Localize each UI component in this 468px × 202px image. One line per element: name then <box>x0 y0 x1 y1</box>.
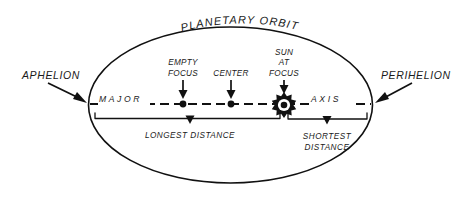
empty-focus-dot-icon <box>180 101 187 108</box>
major-axis-label-left: MAJOR <box>99 94 142 104</box>
perihelion-label: PERIHELION <box>381 69 451 81</box>
sun-starburst-icon <box>272 92 296 118</box>
planetary-orbit-diagram: PLANETARY ORBIT MAJOR AXIS APHELION PERI… <box>0 0 468 202</box>
center-callout-arrow <box>227 80 236 99</box>
empty-focus-label-line2: FOCUS <box>168 69 198 78</box>
longest-distance-bracket <box>95 113 280 124</box>
perihelion-pointer-arrow <box>375 83 412 103</box>
empty-focus-callout-arrow <box>179 80 188 99</box>
center-label: CENTER <box>213 69 248 78</box>
shortest-distance-label-line2: DISTANCE <box>305 143 350 152</box>
shortest-distance-label-line1: SHORTEST <box>303 132 352 141</box>
major-axis-label-right: AXIS <box>310 94 341 104</box>
sun-label-line3: FOCUS <box>269 69 299 78</box>
aphelion-pointer-arrow <box>48 83 87 103</box>
aphelion-label: APHELION <box>21 69 80 81</box>
center-dot-icon <box>228 101 235 108</box>
sun-label-line2: AT <box>278 58 290 67</box>
shortest-distance-bracket <box>288 113 367 125</box>
sun-callout-arrow <box>280 80 289 94</box>
empty-focus-label-line1: EMPTY <box>168 58 198 67</box>
diagram-title: PLANETARY ORBIT <box>179 13 300 33</box>
sun-label-line1: SUN <box>275 48 293 57</box>
diagram-canvas: PLANETARY ORBIT MAJOR AXIS APHELION PERI… <box>0 0 468 202</box>
longest-distance-label: LONGEST DISTANCE <box>145 131 235 140</box>
